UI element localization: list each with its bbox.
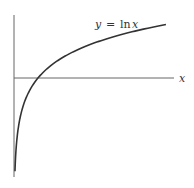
x-axis-label: x: [179, 72, 186, 85]
curve-label-eq: =: [106, 18, 115, 31]
curve-label-fn: ln: [120, 18, 131, 31]
ln-plot: x y = ln x: [0, 0, 194, 188]
ln-curve: [15, 24, 166, 171]
curve-label: y = ln x: [94, 18, 139, 31]
curve-label-y: y: [94, 18, 102, 31]
curve-label-x: x: [132, 18, 139, 31]
